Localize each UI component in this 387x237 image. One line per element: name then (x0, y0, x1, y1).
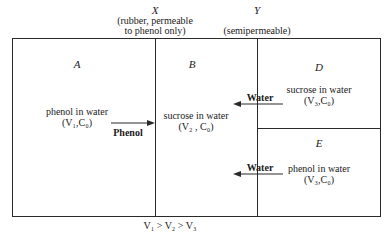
flow-label-water-e: Water (240, 162, 280, 173)
volume-relation: V₁ > V₂ > V₃ (120, 220, 220, 231)
phenol-arrow-icon (111, 120, 155, 126)
flow-label-phenol: Phenol (108, 127, 148, 138)
flow-arrows (0, 0, 387, 237)
flow-label-water-d: Water (240, 92, 280, 103)
